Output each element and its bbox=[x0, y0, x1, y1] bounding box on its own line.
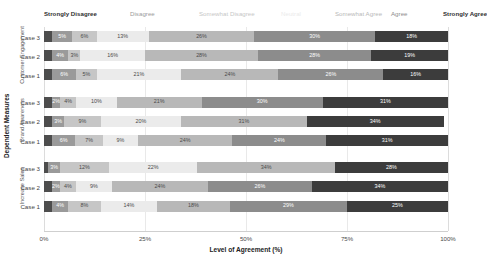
bar-row: 2%4%9%24%26%34% bbox=[44, 181, 448, 192]
bar-segment-strongly-disagree bbox=[44, 116, 52, 127]
segment-value-label: 24% bbox=[155, 184, 166, 189]
y-axis-title: Dependent Measures bbox=[3, 94, 10, 158]
bar-row: 4%3%16%28%28%19% bbox=[44, 50, 448, 61]
bar-segment-agree: 29% bbox=[230, 201, 347, 212]
segment-value-label: 4% bbox=[64, 184, 72, 189]
x-axis-line bbox=[44, 231, 448, 232]
legend-item-somewhat-disagree: Somewhat Disagree bbox=[199, 10, 255, 17]
segment-value-label: 30% bbox=[309, 34, 320, 39]
bar-segment-somewhat-agree: 24% bbox=[138, 135, 232, 146]
bar-segment-neutral: 20% bbox=[101, 116, 182, 127]
x-axis: Level of Agreement (%) 0%25%50%75%100% bbox=[44, 231, 448, 261]
bar-segment-strongly-agree: 18% bbox=[375, 31, 448, 42]
bar-segment-strongly-agree: 34% bbox=[307, 116, 444, 127]
x-tick-label: 25% bbox=[139, 235, 151, 242]
bar-segment-neutral: 21% bbox=[97, 69, 182, 80]
legend-item-strongly-agree: Strongly Agree bbox=[443, 10, 487, 17]
segment-value-label: 4% bbox=[56, 53, 64, 58]
bar-segment-disagree: 6% bbox=[52, 69, 76, 80]
segment-value-label: 16% bbox=[410, 72, 421, 77]
bar-segment-disagree: 3% bbox=[48, 162, 60, 173]
bar-segment-neutral: 16% bbox=[80, 50, 145, 61]
bar-segment-strongly-agree: 28% bbox=[335, 162, 448, 173]
segment-value-label: 21% bbox=[134, 72, 145, 77]
bar-segment-somewhat-agree: 24% bbox=[181, 69, 278, 80]
bar-segment-strongly-agree: 16% bbox=[383, 69, 448, 80]
segment-value-label: 26% bbox=[325, 72, 336, 77]
segment-value-label: 26% bbox=[255, 184, 266, 189]
segment-value-label: 20% bbox=[136, 119, 147, 124]
legend-item-agree: Agree bbox=[391, 10, 408, 17]
bar-segment-neutral: 9% bbox=[76, 181, 112, 192]
segment-value-label: 28% bbox=[309, 53, 320, 58]
bar-row: 3%12%22%34%28% bbox=[44, 162, 448, 173]
bar-segment-strongly-disagree bbox=[44, 181, 52, 192]
bar-row: 4%8%14%18%29%25% bbox=[44, 201, 448, 212]
segment-value-label: 18% bbox=[188, 203, 199, 208]
x-tick-label: 50% bbox=[240, 235, 252, 242]
segment-value-label: 34% bbox=[370, 119, 381, 124]
bar-segment-somewhat-disagree: 5% bbox=[76, 69, 96, 80]
segment-value-label: 13% bbox=[117, 34, 128, 39]
bar-segment-neutral: 22% bbox=[109, 162, 198, 173]
segment-value-label: 4% bbox=[64, 99, 72, 104]
bar-segment-somewhat-agree: 26% bbox=[149, 31, 254, 42]
legend-item-strongly-disagree: Strongly Disagree bbox=[44, 10, 97, 17]
bar-segment-somewhat-disagree: 9% bbox=[64, 116, 100, 127]
x-tick-label: 0% bbox=[40, 235, 49, 242]
bar-segment-disagree: 5% bbox=[52, 31, 72, 42]
bar-row: 6%7%9%24%24%31% bbox=[44, 135, 448, 146]
segment-value-label: 7% bbox=[85, 138, 93, 143]
segment-value-label: 16% bbox=[107, 53, 118, 58]
segment-value-label: 3% bbox=[50, 165, 58, 170]
bar-segment-somewhat-disagree: 3% bbox=[68, 50, 80, 61]
segment-value-label: 34% bbox=[261, 165, 272, 170]
bar-segment-strongly-agree: 19% bbox=[371, 50, 448, 61]
segment-value-label: 34% bbox=[375, 184, 386, 189]
bar-segment-somewhat-agree: 34% bbox=[197, 162, 334, 173]
segment-value-label: 25% bbox=[392, 203, 403, 208]
segment-value-label: 9% bbox=[117, 138, 125, 143]
x-axis-title: Level of Agreement (%) bbox=[209, 246, 282, 253]
segment-value-label: 31% bbox=[239, 119, 250, 124]
bar-segment-somewhat-disagree: 8% bbox=[68, 201, 100, 212]
bar-segment-strongly-disagree bbox=[44, 69, 52, 80]
segment-value-label: 6% bbox=[80, 34, 88, 39]
bar-segment-neutral: 14% bbox=[101, 201, 158, 212]
legend-item-disagree: Disagree bbox=[130, 10, 155, 17]
bar-segment-agree: 26% bbox=[208, 181, 312, 192]
bar-segment-strongly-disagree bbox=[44, 135, 52, 146]
bar-segment-agree: 30% bbox=[202, 97, 323, 108]
bar-segment-disagree: 2% bbox=[52, 97, 60, 108]
bar-segment-somewhat-agree: 28% bbox=[145, 50, 258, 61]
group-label-customer-engagement: Customer Engagement bbox=[19, 24, 25, 86]
bar-segment-strongly-disagree bbox=[44, 50, 52, 61]
segment-value-label: 19% bbox=[404, 53, 415, 58]
segment-value-label: 9% bbox=[78, 119, 86, 124]
bar-row: 2%4%10%21%30%31% bbox=[44, 97, 448, 108]
segment-value-label: 5% bbox=[83, 72, 91, 77]
segment-value-label: 9% bbox=[90, 184, 98, 189]
bar-segment-somewhat-disagree: 4% bbox=[60, 97, 76, 108]
segment-value-label: 5% bbox=[58, 34, 66, 39]
bar-row: 6%5%21%24%26%16% bbox=[44, 69, 448, 80]
bar-segment-somewhat-disagree: 4% bbox=[60, 181, 76, 192]
segment-value-label: 10% bbox=[91, 99, 102, 104]
x-tick-label: 100% bbox=[440, 235, 456, 242]
bar-segment-neutral: 9% bbox=[103, 135, 138, 146]
segment-value-label: 24% bbox=[224, 72, 235, 77]
bar-segment-somewhat-agree: 21% bbox=[117, 97, 202, 108]
bar-segment-strongly-agree: 31% bbox=[323, 97, 448, 108]
segment-value-label: 26% bbox=[196, 34, 207, 39]
bar-segment-somewhat-disagree: 12% bbox=[60, 162, 108, 173]
group-label-brand-awareness: Brand Awareness bbox=[19, 89, 25, 151]
legend-item-somewhat-agree: Somewhat Agree bbox=[335, 10, 382, 17]
bar-segment-somewhat-disagree: 6% bbox=[72, 31, 96, 42]
bar-segment-strongly-disagree bbox=[44, 201, 52, 212]
bar-segment-somewhat-agree: 18% bbox=[157, 201, 230, 212]
bar-segment-somewhat-agree: 31% bbox=[181, 116, 306, 127]
bar-segment-disagree: 6% bbox=[52, 135, 76, 146]
bar-segment-strongly-agree: 34% bbox=[312, 181, 448, 192]
x-tick-label: 75% bbox=[341, 235, 353, 242]
